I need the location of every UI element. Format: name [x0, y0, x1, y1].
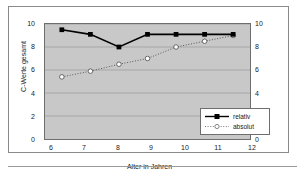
y-tick-right-6: 6 [255, 66, 271, 73]
chart-frame: 10 8 6 4 2 0 10 8 6 4 2 0 6 7 8 9 10 11 … [8, 6, 289, 153]
legend-label-relativ: relativ [233, 112, 250, 121]
x-tick-8: 8 [110, 144, 126, 151]
data-point-absolut [174, 45, 179, 50]
y-tick-right-8: 8 [255, 43, 271, 50]
data-point-relativ [117, 45, 122, 50]
legend: relativ absolut [200, 108, 270, 135]
data-point-relativ [88, 32, 93, 37]
y-tick-right-10: 10 [255, 20, 271, 27]
gridlines [45, 24, 250, 116]
legend-item-absolut: absolut [204, 121, 266, 131]
legend-item-relativ: relativ [204, 111, 266, 121]
legend-label-absolut: absolut [233, 122, 254, 131]
y-tick-right-0: 0 [255, 136, 271, 143]
data-point-absolut [88, 69, 93, 74]
x-tick-10: 10 [177, 144, 193, 151]
data-point-relativ [174, 32, 179, 37]
x-tick-12: 12 [244, 144, 260, 151]
data-point-absolut [202, 39, 207, 44]
data-point-absolut [145, 56, 150, 61]
x-tick-11: 11 [210, 144, 226, 151]
y-tick-right-4: 4 [255, 90, 271, 97]
data-point-relativ [231, 32, 236, 37]
legend-marker-open-circle-icon [204, 122, 230, 131]
chart-figure: 10 8 6 4 2 0 10 8 6 4 2 0 6 7 8 9 10 11 … [0, 0, 305, 177]
data-point-absolut [117, 62, 122, 67]
x-tick-7: 7 [76, 144, 92, 151]
data-point-relativ [145, 32, 150, 37]
y-axis-label-left: C-Werte gesamt [20, 17, 27, 117]
data-point-absolut [60, 75, 65, 80]
y-tick-left-0: 0 [19, 136, 35, 143]
series-relativ [59, 27, 235, 49]
x-tick-6: 6 [43, 144, 59, 151]
data-point-relativ [202, 32, 207, 37]
section-divider [8, 166, 297, 167]
data-point-relativ [59, 27, 64, 32]
series-absolut [60, 33, 236, 79]
x-tick-9: 9 [143, 144, 159, 151]
legend-marker-filled-square-icon [204, 112, 230, 121]
